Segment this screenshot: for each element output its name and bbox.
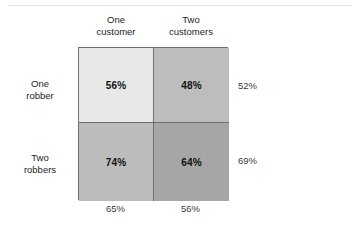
- matrix-figure: One customer Two customers One robber Tw…: [0, 0, 360, 228]
- column-header-two-customers: Two customers: [153, 14, 229, 37]
- column-header-line-1: Two: [153, 14, 229, 26]
- matrix-cell-value: 48%: [181, 80, 202, 91]
- matrix-cell: 56%: [79, 48, 154, 123]
- top-divider: [8, 5, 352, 6]
- row-header-line-2: robber: [8, 90, 72, 102]
- matrix-cell: 48%: [154, 48, 229, 123]
- matrix-grid: 56% 48% 74% 64%: [78, 47, 228, 200]
- matrix-cell: 74%: [79, 123, 154, 201]
- row-margin-value: 69%: [238, 155, 284, 166]
- column-header-one-customer: One customer: [78, 14, 154, 37]
- column-header-line-2: customers: [153, 26, 229, 38]
- column-margin-value: 65%: [78, 203, 153, 214]
- row-header-line-1: Two: [8, 152, 72, 164]
- row-header-two-robbers: Two robbers: [8, 152, 72, 175]
- row-header-line-2: robbers: [8, 164, 72, 176]
- column-header-line-2: customer: [78, 26, 154, 38]
- row-margin-value: 52%: [238, 80, 284, 91]
- matrix-cell-value: 74%: [106, 157, 127, 168]
- matrix-cell: 64%: [154, 123, 229, 201]
- column-header-line-1: One: [78, 14, 154, 26]
- row-header-line-1: One: [8, 78, 72, 90]
- row-header-one-robber: One robber: [8, 78, 72, 101]
- matrix-cell-value: 64%: [181, 157, 202, 168]
- matrix-cell-value: 56%: [106, 80, 127, 91]
- column-margin-value: 56%: [153, 203, 228, 214]
